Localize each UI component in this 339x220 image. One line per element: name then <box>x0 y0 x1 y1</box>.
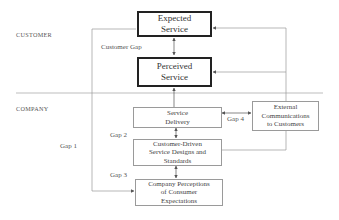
company-perceptions-box: Company Perceptions of Consumer Expectat… <box>135 179 223 206</box>
gap1-label: Gap 1 <box>60 142 77 150</box>
gap2-label: Gap 2 <box>110 131 127 139</box>
expected-service-box: Expected Service <box>137 11 212 37</box>
company-section-label: COMPANY <box>16 105 48 112</box>
customer-driven-standards-box: Customer-Driven Service Designs and Stan… <box>133 139 222 166</box>
customer-gap-label: Customer Gap <box>101 43 142 51</box>
customer-section-label: CUSTOMER <box>16 31 52 38</box>
perceived-service-box: Perceived Service <box>137 57 212 87</box>
service-delivery-box: Service Delivery <box>133 107 222 128</box>
gap3-label: Gap 3 <box>110 171 127 179</box>
external-communications-box: External Communications to Customers <box>252 101 319 131</box>
gap4-label: Gap 4 <box>227 115 244 123</box>
